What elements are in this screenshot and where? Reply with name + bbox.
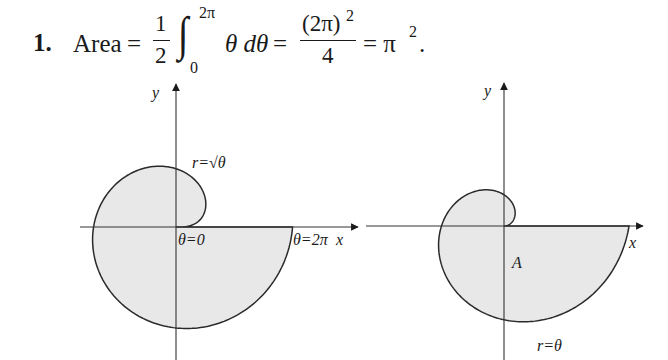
polar-figures: y r=√θ θ=0 θ=2π x y x A r=θ xyxy=(0,0,668,360)
region-a-label: A xyxy=(511,254,522,271)
right-curve-label: r=θ xyxy=(537,337,562,354)
left-curve-label: r=√θ xyxy=(192,154,226,171)
right-figure: y x A r=θ xyxy=(366,82,643,360)
left-figure: y r=√θ θ=0 θ=2π x xyxy=(80,84,358,360)
right-y-label: y xyxy=(482,82,492,100)
right-x-label: x xyxy=(628,234,636,251)
left-x-label: x xyxy=(335,231,343,248)
theta-zero-label: θ=0 xyxy=(178,231,205,248)
left-y-label: y xyxy=(150,84,160,102)
right-shaded-region xyxy=(439,190,629,322)
theta-2pi-label: θ=2π xyxy=(293,231,329,248)
